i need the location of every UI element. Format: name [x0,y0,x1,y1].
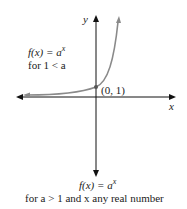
graph-canvas [0,0,187,209]
y-axis-up-arrow-icon [93,15,99,22]
bottom-function-label: f(x) = ax [79,179,116,191]
point-0-1 [94,85,98,89]
point-label: (0, 1) [101,84,125,96]
x-axis-label: x [169,100,174,112]
y-axis-label: y [83,13,88,25]
y-axis [93,15,99,177]
left-condition-label: for 1 < a [28,59,66,71]
bottom-condition-label: for a > 1 and x any real number [25,192,164,204]
curve-top-arrow-icon [116,16,121,23]
y-axis-down-arrow-icon [93,170,99,177]
x-axis-left-arrow-icon [16,94,23,100]
left-function-label: f(x) = ax [28,46,65,58]
